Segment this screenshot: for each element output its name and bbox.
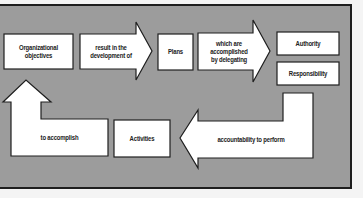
- arrow3-text: accountability to perform: [217, 136, 284, 144]
- arrow1-label: result in the development of: [85, 34, 138, 69]
- diagram-shapes: [0, 0, 363, 198]
- arrow1-line-2: development of: [90, 52, 132, 60]
- accomplish-label: to accomplish: [18, 119, 100, 156]
- arrow3-label: accountability to perform: [204, 121, 298, 158]
- activities-label: Activities: [118, 120, 166, 157]
- arrow2-line-1: which are: [216, 40, 242, 48]
- activities-text: Activities: [130, 135, 155, 143]
- arrow2-line-3: by delegating: [211, 56, 247, 64]
- objectives-line-2: objectives: [25, 52, 52, 60]
- objectives-label: Organizational objectives: [9, 34, 68, 69]
- arrow2-line-2: accomplished: [210, 48, 248, 56]
- objectives-line-1: Organizational: [19, 44, 58, 52]
- responsibility-label: Responsibility: [282, 62, 335, 85]
- arrow1-line-1: result in the: [95, 44, 127, 52]
- responsibility-text: Responsibility: [289, 70, 327, 78]
- plans-text: Plans: [168, 48, 183, 56]
- authority-text: Authority: [296, 40, 321, 48]
- accomplish-text: to accomplish: [41, 134, 79, 142]
- authority-label: Authority: [282, 32, 335, 55]
- arrow2-label: which are accomplished by delegating: [203, 33, 256, 70]
- plans-label: Plans: [161, 34, 191, 70]
